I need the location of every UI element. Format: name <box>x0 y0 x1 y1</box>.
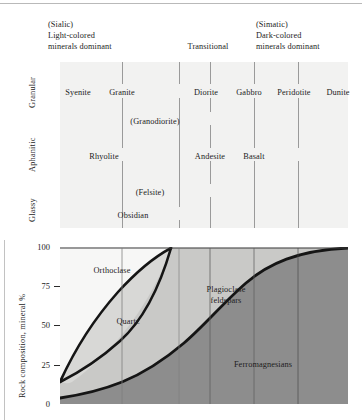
texture-label-aphanitic: Aphanitic <box>28 137 37 172</box>
region-label-orthoclase: Orthoclase <box>94 266 131 277</box>
top-rule <box>0 3 362 4</box>
region-label-ferromagnesians: Ferromagnesians <box>234 360 292 371</box>
rock-label-obsidian: Obsidian <box>118 211 149 222</box>
y-axis-label: Rock composition, mineral % <box>18 294 27 399</box>
y-tick-label-50: 50 <box>42 320 51 330</box>
texture-label-granular: Granular <box>28 77 37 108</box>
y-tick-label-0: 0 <box>46 399 50 409</box>
region-label-plagioclase-line1: Plagioclase <box>207 285 246 296</box>
divider-mask <box>178 84 181 98</box>
header-right-line3: minerals dominant <box>256 42 320 53</box>
divider-mask <box>179 207 182 220</box>
divider-mask <box>209 184 212 197</box>
rock-label-felsite: (Felsite) <box>136 188 165 199</box>
divider-mask <box>209 112 212 125</box>
rock-label-gabbro: Gabbro <box>236 88 261 99</box>
region-label-plagioclase-line2: feldspars <box>211 296 242 307</box>
rock-label-syenite: Syenite <box>65 88 91 99</box>
texture-label-glassy: Glassy <box>28 198 37 222</box>
header-left-line1: (Sialic) <box>48 20 73 31</box>
left-frame-line <box>4 240 5 420</box>
rock-label-andesite: Andesite <box>195 152 225 163</box>
rock-label-dunite: Dunite <box>326 88 349 99</box>
header-middle-transitional: Transitional <box>188 42 229 53</box>
divider-mask <box>121 148 124 161</box>
header-right-line1: (Simatic) <box>256 20 288 31</box>
rock-label-rhyolite: Rhyolite <box>89 152 118 163</box>
y-tick-label-75: 75 <box>42 281 51 291</box>
rock-label-diorite: Diorite <box>194 88 218 99</box>
rock-label-granite: Granite <box>109 88 135 99</box>
rock-classification-panel <box>60 62 348 228</box>
region-label-quartz: Quartz <box>116 317 139 328</box>
y-tick-label-100: 100 <box>37 242 50 252</box>
y-tick-label-25: 25 <box>42 360 51 370</box>
rock-label-basalt: Basalt <box>243 152 264 163</box>
rock-label-peridotite: Peridotite <box>277 88 310 99</box>
rock-label-granodiorite: (Granodiorite) <box>130 117 179 128</box>
divider-mask <box>297 148 300 161</box>
header-left-line3: minerals dominant <box>48 42 112 53</box>
igneous-rock-classification-figure: (Sialic) Light-colored minerals dominant… <box>0 0 362 420</box>
header-right-line2: Dark-colored <box>256 31 301 42</box>
header-left-line2: Light-colored <box>48 31 95 42</box>
